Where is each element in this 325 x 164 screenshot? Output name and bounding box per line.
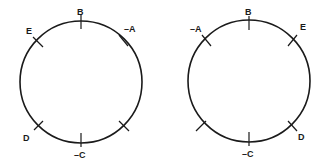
left-label-d: D bbox=[23, 133, 30, 143]
left-circle bbox=[20, 21, 142, 143]
left-label-neg-c: –C bbox=[74, 150, 86, 160]
left-label-b: B bbox=[77, 7, 84, 17]
left-label-neg-a: –A bbox=[124, 24, 136, 34]
right-label-neg-c: –C bbox=[242, 149, 254, 159]
right-tick-unlabeled bbox=[196, 121, 206, 131]
left-label-e: E bbox=[26, 26, 32, 36]
right-circle-group: B –A E D –C bbox=[188, 7, 310, 159]
right-circle bbox=[188, 20, 310, 142]
right-label-neg-a: –A bbox=[190, 24, 202, 34]
right-label-e: E bbox=[300, 22, 306, 32]
circle-diagrams: B –A E D –C B –A E D –C bbox=[0, 0, 325, 164]
right-label-d: D bbox=[298, 132, 305, 142]
right-label-b: B bbox=[245, 7, 252, 17]
left-circle-group: B –A E D –C bbox=[20, 7, 142, 160]
